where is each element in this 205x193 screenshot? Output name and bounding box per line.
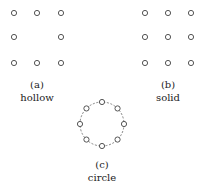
dot-c — [115, 137, 120, 142]
dot-b — [142, 34, 147, 39]
dot-c — [84, 137, 89, 142]
dot-a — [34, 10, 39, 15]
label-b-name: solid — [138, 92, 198, 104]
label-a-tag: (a) — [7, 79, 67, 91]
dot-a — [34, 60, 39, 65]
pattern-diagram: (a) hollow (b) solid (c) circle — [0, 0, 205, 193]
dot-c — [115, 106, 120, 111]
dot-c — [99, 143, 104, 148]
dot-a — [11, 10, 16, 15]
dot-a — [58, 10, 63, 15]
dot-a — [11, 60, 16, 65]
label-c-tag: (c) — [72, 159, 132, 171]
dot-b — [188, 34, 193, 39]
dot-b — [188, 10, 193, 15]
dot-c — [121, 121, 126, 126]
label-b-tag: (b) — [138, 79, 198, 91]
label-a-name: hollow — [7, 92, 67, 104]
label-c-name: circle — [72, 172, 132, 184]
dot-c — [99, 99, 104, 104]
dot-b — [188, 60, 193, 65]
dot-b — [165, 60, 170, 65]
dot-c — [77, 121, 82, 126]
dot-b — [165, 34, 170, 39]
dot-a — [11, 34, 16, 39]
dot-b — [142, 60, 147, 65]
dot-b — [142, 10, 147, 15]
dot-b — [165, 10, 170, 15]
dot-c — [84, 106, 89, 111]
dot-a — [58, 34, 63, 39]
dot-a — [58, 60, 63, 65]
